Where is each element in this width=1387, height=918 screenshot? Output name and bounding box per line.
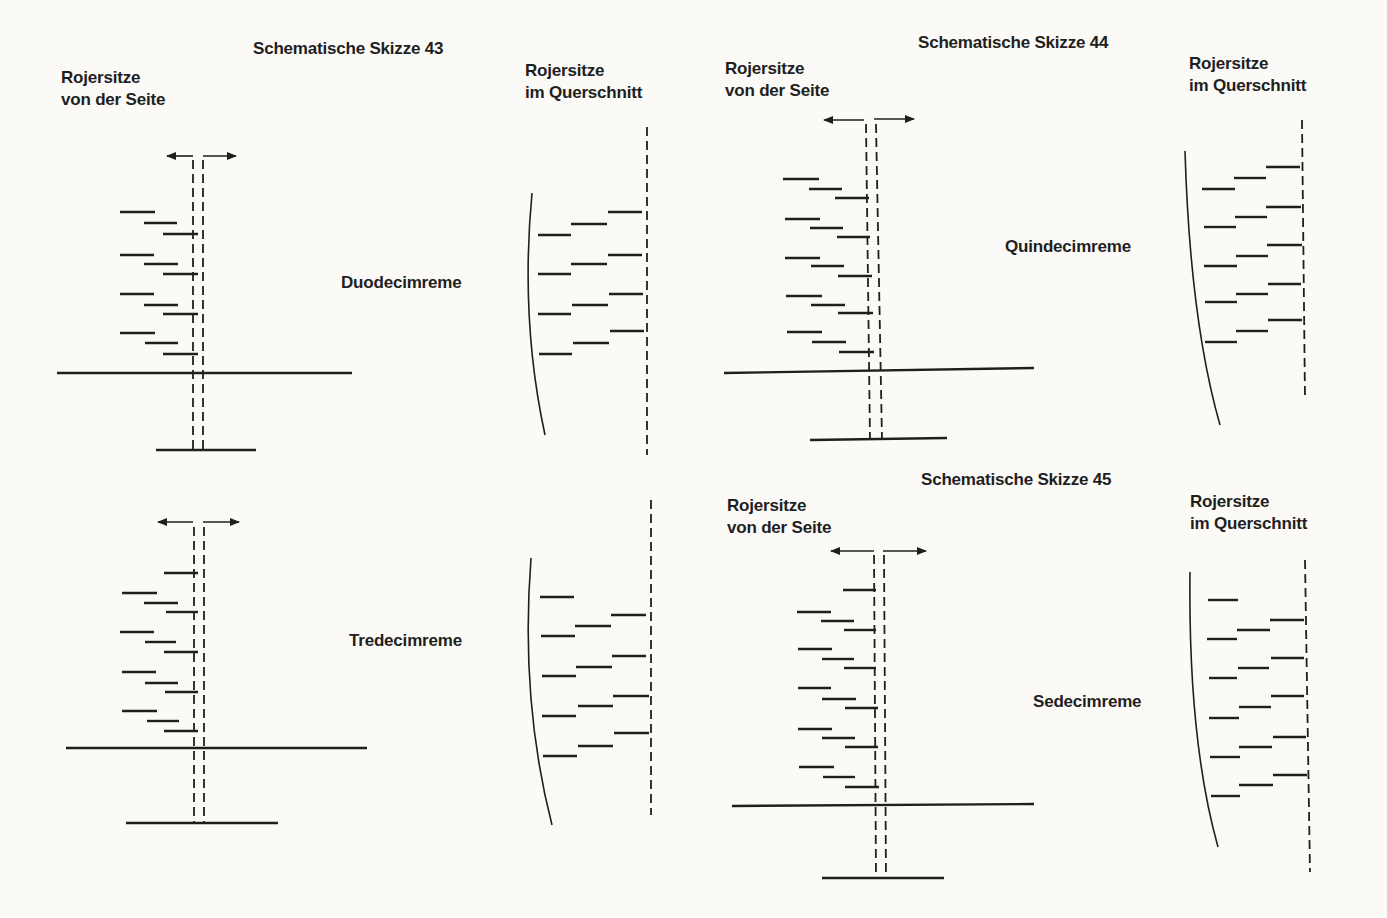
duodecimreme-side-view [57,156,352,450]
tredecimreme-cross-section [528,500,651,825]
sedecimreme-cross-section [1190,560,1310,872]
schematic-drawings [0,0,1387,918]
quindecimreme-cross-section [1185,120,1305,425]
duodecimreme-cross-section [528,127,647,455]
tredecimreme-side-view [66,522,367,823]
quindecimreme-side-view [724,119,1034,440]
sedecimreme-side-view [732,551,1034,878]
